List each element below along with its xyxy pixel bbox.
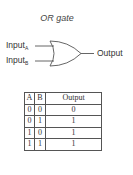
cell: 1 [46, 127, 102, 139]
cell: 0 [46, 104, 102, 116]
or-gate-symbol [0, 0, 133, 90]
cell: 1 [35, 139, 46, 151]
cell: 0 [25, 104, 35, 116]
cell: 0 [25, 116, 35, 128]
table-header-row: A B Output [25, 93, 102, 105]
cell: 1 [46, 139, 102, 151]
table-row: 0 1 1 [25, 116, 102, 128]
table-row: 1 0 1 [25, 127, 102, 139]
truth-table: A B Output 0 0 0 0 1 1 1 0 1 1 1 1 [24, 92, 102, 151]
table-row: 0 0 0 [25, 104, 102, 116]
cell: 0 [35, 104, 46, 116]
cell: 1 [35, 116, 46, 128]
cell: 0 [35, 127, 46, 139]
table-row: 1 1 1 [25, 139, 102, 151]
or-gate-body [50, 41, 81, 66]
cell: 1 [25, 127, 35, 139]
header-output: Output [46, 93, 102, 105]
header-b: B [35, 93, 46, 105]
cell: 1 [25, 139, 35, 151]
cell: 1 [46, 116, 102, 128]
header-a: A [25, 93, 35, 105]
